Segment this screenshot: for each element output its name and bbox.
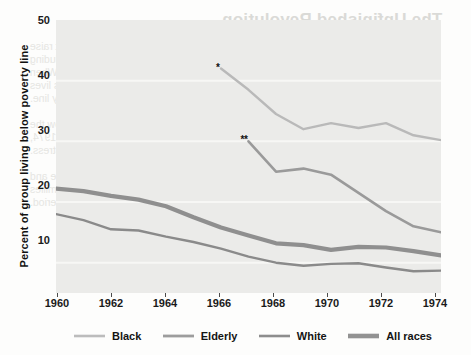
x-tick-label-1962: 1962 bbox=[91, 297, 131, 309]
y-tick-label-10: 10 bbox=[20, 234, 50, 246]
series-line-elderly bbox=[249, 141, 442, 232]
plot-area: * ** bbox=[56, 20, 441, 293]
x-tick-label-1970: 1970 bbox=[307, 297, 347, 309]
legend-swatch-white-icon bbox=[259, 333, 290, 339]
y-tick-label-50: 50 bbox=[20, 14, 50, 26]
y-tick-label-30: 30 bbox=[20, 124, 50, 136]
x-tick-label-1964: 1964 bbox=[145, 297, 185, 309]
legend-item-white[interactable]: White bbox=[259, 330, 327, 342]
x-tick-label-1960: 1960 bbox=[37, 297, 77, 309]
y-tick-label-40: 40 bbox=[20, 69, 50, 81]
legend-item-elderly[interactable]: Elderly bbox=[163, 330, 238, 342]
y-tick-label-20: 20 bbox=[20, 179, 50, 191]
legend-label-black: Black bbox=[112, 330, 141, 342]
x-tick-label-1968: 1968 bbox=[253, 297, 293, 309]
legend-swatch-elderly-icon bbox=[163, 333, 194, 339]
legend-label-white: White bbox=[297, 330, 327, 342]
annotation-single-star: * bbox=[216, 63, 219, 73]
series-line-all-races bbox=[56, 189, 441, 256]
x-tick-label-1972: 1972 bbox=[361, 297, 401, 309]
x-tick-label-1974: 1974 bbox=[415, 297, 455, 309]
legend-item-all-races[interactable]: All races bbox=[348, 330, 432, 342]
legend-item-black[interactable]: Black bbox=[74, 330, 141, 342]
annotation-double-star: ** bbox=[241, 135, 248, 145]
x-tick-label-1966: 1966 bbox=[199, 297, 239, 309]
chart-figure: The Unfinished Revolution A number of th… bbox=[0, 0, 471, 355]
legend-label-elderly: Elderly bbox=[201, 330, 238, 342]
legend-label-all-races: All races bbox=[386, 330, 432, 342]
legend-swatch-all-races-icon bbox=[348, 332, 379, 340]
legend-swatch-black-icon bbox=[74, 333, 105, 339]
series-line-black bbox=[221, 69, 441, 141]
chart-legend: Black Elderly White All races bbox=[56, 326, 446, 346]
chart-canvas bbox=[56, 20, 441, 293]
